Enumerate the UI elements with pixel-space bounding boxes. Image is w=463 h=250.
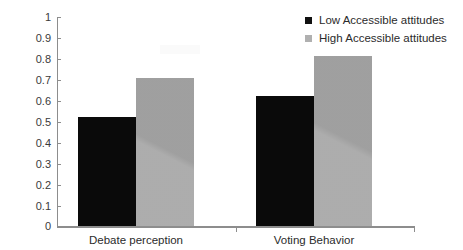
bar-voting-behavior-low-accessible [256, 96, 314, 226]
x-axis-label-debate-perception: Debate perception [76, 234, 196, 247]
y-tick-label: 0.6 [11, 96, 51, 107]
legend-item-high-accessible: High Accessible attitudes [305, 31, 463, 46]
x-axis-tick [414, 226, 415, 232]
y-tick-label: 1 [11, 12, 51, 23]
bar-debate-perception-high-accessible [136, 78, 194, 226]
square-swatch-icon [305, 17, 312, 24]
x-axis-label-voting-behavior: Voting Behavior [254, 234, 374, 247]
legend: Low Accessible attitudes High Accessible… [305, 13, 463, 49]
y-tick-label: 0.8 [11, 54, 51, 65]
scan-artifact [160, 45, 200, 54]
y-tick-label: 0.3 [11, 159, 51, 170]
y-tick-label: 0.2 [11, 180, 51, 191]
bar-debate-perception-low-accessible [78, 117, 136, 226]
y-tick-label: 0.4 [11, 138, 51, 149]
x-axis-tick [236, 226, 237, 232]
y-tick-label: 0 [11, 221, 51, 232]
legend-item-label: High Accessible attitudes [319, 32, 447, 45]
y-axis: 1 0.9 0.8 0.7 0.6 0.5 0.4 0.3 0.2 0.1 0 [0, 0, 60, 250]
bar-voting-behavior-high-accessible [314, 56, 372, 226]
grouped-bar-chart: 1 0.9 0.8 0.7 0.6 0.5 0.4 0.3 0.2 0.1 0 … [0, 0, 463, 250]
y-tick-label: 0.9 [11, 33, 51, 44]
legend-item-low-accessible: Low Accessible attitudes [305, 13, 463, 28]
square-swatch-icon [305, 35, 312, 42]
legend-item-label: Low Accessible attitudes [319, 14, 444, 27]
y-tick-label: 0.7 [11, 75, 51, 86]
y-tick-label: 0.5 [11, 117, 51, 128]
y-tick-label: 0.1 [11, 201, 51, 212]
